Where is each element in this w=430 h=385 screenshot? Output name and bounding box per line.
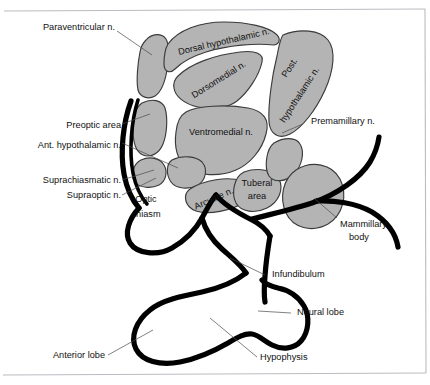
label-ventromedial: Ventromedial n. (189, 127, 253, 137)
label-infundibulum: Infundibulum (272, 269, 325, 279)
infundibulum-left-wall (202, 218, 246, 273)
label-mammillary-line2: body (349, 232, 369, 242)
leader-anterior-lobe (108, 330, 153, 355)
hypophysis-outline (134, 273, 308, 363)
label-tuberal-line2: area (248, 191, 267, 201)
label-premamillary: Premamillary n. (311, 116, 375, 126)
label-ant-hypothalamic: Ant. hypothalamic n. (38, 140, 121, 150)
infundibulum-right-wall (264, 236, 270, 302)
label-paraventricular: Paraventricular n. (43, 22, 115, 32)
frame-top-line (4, 9, 425, 11)
label-hypophysis: Hypophysis (260, 352, 308, 362)
label-optic-chiasm-line2: chiasm (131, 209, 160, 219)
label-neural-lobe: Neural lobe (297, 307, 344, 317)
frame-bottom-line (3, 373, 426, 375)
ant-hypothalamic-nucleus-shape (133, 158, 166, 187)
hypothalamus-diagram: Paraventricular n. Dorsal hypothalamic n… (0, 0, 430, 385)
label-mammillary-line1: Mammillary (340, 219, 387, 229)
leader-neural-lobe (258, 311, 291, 313)
frame-right-line (425, 9, 426, 373)
preoptic-area-shape (133, 100, 167, 156)
label-suprachiasmatic: Suprachiasmatic n. (43, 175, 121, 185)
label-preoptic-area: Preoptic area (66, 120, 122, 130)
label-optic-chiasm-line1: Optic (135, 194, 157, 204)
label-tuberal-line1: Tuberal (242, 178, 273, 188)
label-anterior-lobe: Anterior lobe (53, 350, 105, 360)
mammillary-body-shape (283, 164, 344, 228)
label-supraoptic: Supraoptic n. (67, 190, 121, 200)
